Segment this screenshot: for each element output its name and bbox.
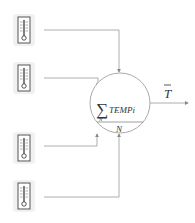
thermometer-icon [13,14,35,46]
thermometer-icon [13,62,35,94]
numerator-text: TEMPi [109,105,135,115]
connector-line [44,134,97,146]
thermometer-icon [13,132,35,164]
thermometer-icon [13,180,35,212]
sum-subscript: N [99,117,102,122]
connector-line [44,30,119,72]
connector-line [44,78,98,86]
connector-line [44,134,119,197]
output-label: T [164,86,171,102]
denominator-text: N [116,124,122,134]
